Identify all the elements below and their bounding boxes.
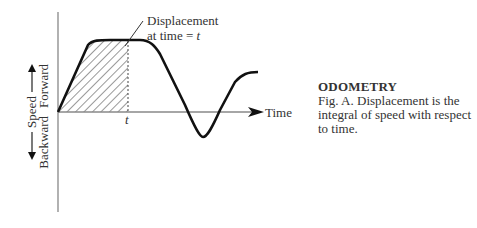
displacement-area [58,40,128,112]
caption-title: ODOMETRY [318,80,477,94]
annotation-line1: Displacement [147,13,219,28]
annotation-leader [125,21,143,46]
x-axis-label: Time [265,105,292,120]
y-axis-label: Speed [24,96,39,128]
annotation-line2: at time = t [147,28,201,43]
figure-caption: ODOMETRY Fig. A. Displacement is the int… [318,80,477,136]
forward-arrow-icon [28,64,36,72]
t-tick-label: t [125,112,129,127]
backward-arrow-icon [28,152,36,160]
caption-text: Fig. A. Displacement is the integral of … [318,94,477,136]
